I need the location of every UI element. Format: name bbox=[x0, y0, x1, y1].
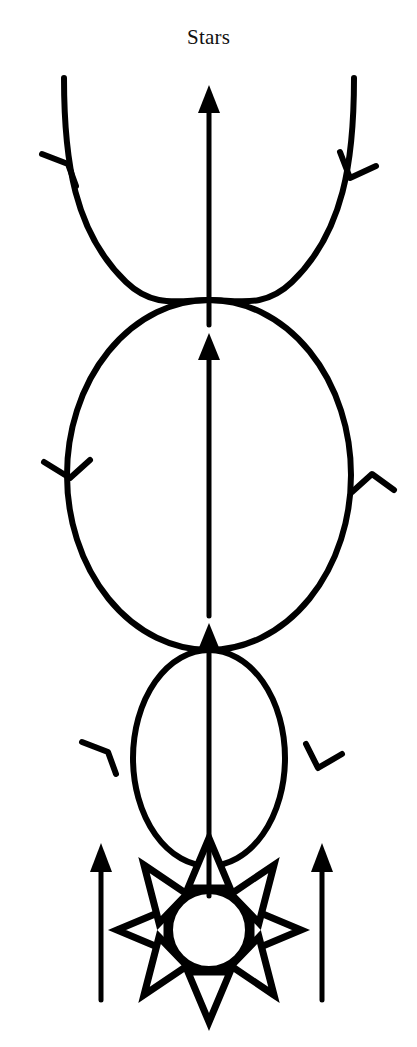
flare-curve-left bbox=[42, 78, 209, 301]
side-arrow-left bbox=[90, 843, 112, 1000]
side-arrow-right bbox=[311, 843, 333, 1000]
central-vertical-arrow bbox=[198, 85, 220, 896]
stars-diagram bbox=[0, 0, 417, 1047]
flare-curve-right bbox=[209, 78, 376, 301]
sun-disc bbox=[169, 890, 249, 970]
figure-canvas: Stars bbox=[0, 0, 417, 1047]
inner-orbit-circle bbox=[82, 650, 342, 866]
outer-orbit-circle bbox=[44, 300, 394, 650]
